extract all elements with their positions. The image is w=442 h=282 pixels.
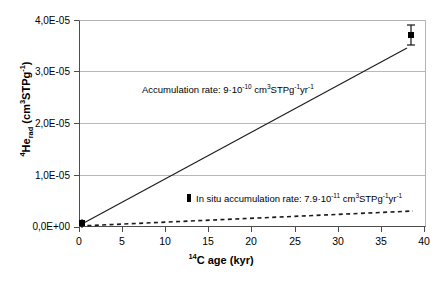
- x-tick-label-25: 25: [280, 236, 310, 247]
- y-tick-label-0: 0,0E+00: [32, 222, 70, 232]
- y-tickmark-2e-05: [74, 123, 79, 124]
- x-tick-label-5: 5: [107, 236, 137, 247]
- annotation-accumulation-rate: Accumulation rate: 9·10-10 cm3STPg-1yr-1: [142, 84, 314, 96]
- x-tickmark-35: [381, 227, 382, 232]
- annotation-insitu-unit-yr-exp: -1: [396, 192, 402, 199]
- y-axis-title-element: He: [20, 138, 32, 152]
- annotation-accumulation-unit-yr-exp: -1: [308, 83, 314, 90]
- x-tick-label-35: 35: [366, 236, 396, 247]
- y-axis-title-unit-close: ): [20, 61, 32, 65]
- annotation-insitu-lead: In situ accumulation rate: 7.9: [196, 193, 317, 204]
- x-tick-label-20: 20: [236, 236, 266, 247]
- y-tick-label-3e-05: 3,0E-05: [35, 67, 70, 77]
- x-tickmark-0: [79, 227, 80, 232]
- x-tick-label-40: 40: [409, 236, 439, 247]
- x-tick-label-15: 15: [193, 236, 223, 247]
- y-tickmark-4e-05: [74, 20, 79, 21]
- y-axis-title-stpg: STPg: [20, 72, 32, 100]
- y-tickmark-3e-05: [74, 71, 79, 72]
- y-axis-title-unit-open: (cm: [20, 104, 32, 127]
- y-tick-label-4e-05: 4,0E-05: [35, 16, 70, 26]
- x-tickmark-20: [251, 227, 252, 232]
- x-tick-label-10: 10: [150, 236, 180, 247]
- y-axis-title-cm-exponent: 3: [18, 100, 27, 104]
- annotation-accumulation-exponent: -10: [242, 83, 251, 90]
- x-tickmark-40: [424, 227, 425, 232]
- y-axis-title: 4Herad (cm3STPg-1): [20, 4, 32, 214]
- y-axis-title-mass-number: 4: [18, 152, 27, 156]
- annotation-insitu-base: 10: [321, 193, 332, 204]
- annotation-accumulation-unit-yr: yr: [300, 84, 308, 95]
- in-situ-legend-marker: [187, 194, 191, 202]
- y-axis-title-g-exponent: -1: [18, 65, 27, 72]
- x-tick-label-30: 30: [323, 236, 353, 247]
- x-axis-title-mass-number: 14: [188, 252, 196, 261]
- annotation-in-situ-rate: In situ accumulation rate: 7.9·10-11 cm3…: [196, 193, 402, 205]
- gridline-3e-05: [80, 71, 425, 72]
- annotation-insitu-unit-cm: cm: [340, 193, 355, 204]
- x-axis-title: 14C age (kyr): [0, 254, 442, 266]
- x-tickmark-10: [165, 227, 166, 232]
- y-tick-label-1e-05: 1,0E-05: [35, 171, 70, 181]
- annotation-accumulation-unit-cm: cm: [252, 84, 267, 95]
- x-tickmark-25: [295, 227, 296, 232]
- y-axis-title-subscript: rad: [26, 127, 35, 139]
- x-tickmark-15: [208, 227, 209, 232]
- annotation-accumulation-lead: Accumulation rate: 9: [142, 84, 229, 95]
- x-tickmark-30: [338, 227, 339, 232]
- x-axis-title-text: C age (kyr): [197, 254, 254, 266]
- annotation-insitu-unit-stpg: STPg: [359, 193, 383, 204]
- annotation-insitu-exponent: -11: [331, 192, 340, 199]
- y-tickmark-1e-05: [74, 175, 79, 176]
- annotation-accumulation-unit-stpg: STPg: [271, 84, 295, 95]
- annotation-accumulation-base: 10: [232, 84, 243, 95]
- x-tickmark-5: [122, 227, 123, 232]
- gridline-1e-05: [80, 175, 425, 176]
- y-tick-label-2e-05: 2,0E-05: [35, 119, 70, 129]
- x-tick-label-0: 0: [64, 236, 94, 247]
- gridline-2e-05: [80, 123, 425, 124]
- chart-figure: 4,0E-05 3,0E-05 2,0E-05 1,0E-05 0,0E+00 …: [0, 0, 442, 282]
